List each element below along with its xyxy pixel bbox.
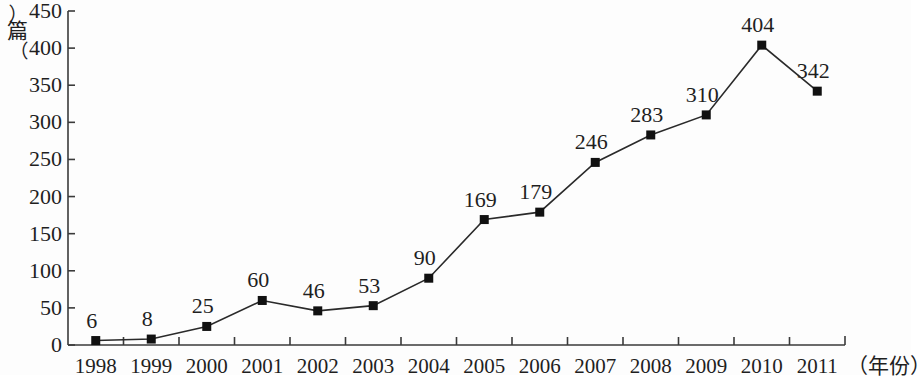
axis-lines bbox=[68, 11, 845, 345]
data-marker-2010 bbox=[757, 41, 766, 50]
data-marker-2008 bbox=[646, 130, 655, 139]
data-marker-2007 bbox=[591, 158, 600, 167]
data-marker-1999 bbox=[147, 335, 156, 344]
data-marker-2011 bbox=[813, 87, 822, 96]
data-markers bbox=[91, 41, 822, 345]
data-marker-1998 bbox=[91, 336, 100, 345]
data-marker-2005 bbox=[480, 215, 489, 224]
tick-marks bbox=[68, 11, 845, 345]
data-marker-2004 bbox=[424, 274, 433, 283]
data-marker-2009 bbox=[702, 110, 711, 119]
data-line bbox=[96, 45, 818, 340]
data-marker-2002 bbox=[313, 306, 322, 315]
data-marker-2000 bbox=[202, 322, 211, 331]
data-marker-2001 bbox=[258, 296, 267, 305]
data-marker-2006 bbox=[535, 208, 544, 217]
data-marker-2003 bbox=[369, 301, 378, 310]
